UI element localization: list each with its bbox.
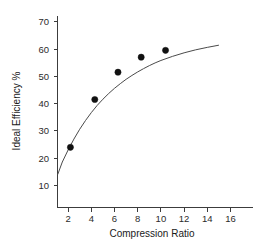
y-tick-label: 50 xyxy=(38,71,49,82)
x-tick-label: 2 xyxy=(65,213,70,224)
data-points xyxy=(67,47,168,150)
fitted-curve xyxy=(58,45,219,174)
chart-canvas: 10 20 30 40 50 60 70 2 4 6 8 10 12 xyxy=(0,0,265,251)
y-axis-ticks xyxy=(54,22,58,186)
y-tick-label: 10 xyxy=(38,180,49,191)
data-point-marker xyxy=(115,69,121,75)
x-axis-title: Compression Ratio xyxy=(109,228,194,239)
x-tick-label: 4 xyxy=(89,213,94,224)
y-tick-label: 20 xyxy=(38,153,49,164)
y-tick-label: 40 xyxy=(38,98,49,109)
data-point-marker xyxy=(162,47,168,53)
data-point-marker xyxy=(92,96,98,102)
y-axis-title: Ideal Efficiency % xyxy=(11,72,22,151)
y-tick-label: 70 xyxy=(38,16,49,27)
data-point-marker xyxy=(138,54,144,60)
x-tick-label: 6 xyxy=(112,213,117,224)
x-tick-label: 14 xyxy=(202,213,213,224)
x-axis-ticks xyxy=(68,208,230,212)
y-tick-label: 60 xyxy=(38,44,49,55)
x-tick-label: 8 xyxy=(135,213,140,224)
x-axis-tick-labels: 2 4 6 8 10 12 14 16 xyxy=(65,213,235,224)
data-point-marker xyxy=(67,144,73,150)
curve-path xyxy=(58,45,219,174)
y-tick-label: 30 xyxy=(38,125,49,136)
x-tick-label: 12 xyxy=(179,213,190,224)
x-tick-label: 10 xyxy=(156,213,167,224)
x-tick-label: 16 xyxy=(225,213,236,224)
y-axis-tick-labels: 10 20 30 40 50 60 70 xyxy=(38,16,49,191)
ideal-efficiency-chart: 10 20 30 40 50 60 70 2 4 6 8 10 12 xyxy=(0,0,265,251)
chart-axes xyxy=(58,16,253,208)
